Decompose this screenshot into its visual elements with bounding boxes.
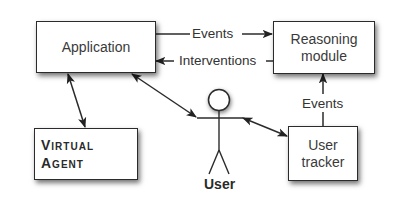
node-reasoning-module-label: Reasoning module <box>291 31 358 65</box>
diagram-canvas: Application Reasoning module Virtual Age… <box>0 0 402 203</box>
node-application-label: Application <box>62 39 131 56</box>
node-user-tracker-label: User tracker <box>302 137 345 171</box>
edge-label-events-top: Events <box>192 26 233 41</box>
edge-app-virtual-agent <box>68 74 85 127</box>
node-virtual-agent-label: Virtual Agent <box>41 136 94 172</box>
node-reasoning-module: Reasoning module <box>273 21 375 74</box>
edge-app-user <box>132 74 196 117</box>
edge-label-interventions: Interventions <box>179 53 256 68</box>
edge-label-events-right: Events <box>302 96 343 111</box>
node-user-tracker: User tracker <box>288 126 358 181</box>
user-label: User <box>204 176 235 192</box>
node-application: Application <box>36 21 156 73</box>
node-virtual-agent: Virtual Agent <box>34 128 138 180</box>
edge-user-tracker <box>243 118 287 136</box>
user-stick-figure-icon <box>197 90 243 175</box>
